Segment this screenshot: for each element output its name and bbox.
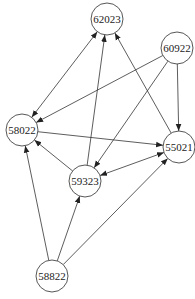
edges-layer: [25, 32, 178, 265]
node-58822[interactable]: 58822: [36, 260, 68, 292]
edge-58822-to-58022: [25, 146, 49, 261]
edge-60922-to-58022: [36, 55, 163, 122]
edge-58022-to-62023: [32, 32, 98, 118]
graph-svg: 620236092258022550215932358822: [0, 0, 195, 299]
node-label: 59323: [71, 175, 99, 187]
node-59323[interactable]: 59323: [69, 165, 101, 197]
node-62023[interactable]: 62023: [91, 3, 123, 35]
graph-canvas: 620236092258022550215932358822: [0, 0, 195, 299]
edge-58022-to-55021: [38, 132, 163, 146]
edge-59323-to-58022: [34, 140, 72, 171]
edge-60922-to-55021: [177, 64, 178, 131]
nodes-layer: 620236092258022550215932358822: [6, 3, 195, 292]
node-55021[interactable]: 55021: [163, 131, 195, 163]
edge-60922-to-59323: [94, 61, 168, 168]
node-label: 55021: [165, 141, 193, 153]
node-label: 58822: [38, 270, 66, 282]
node-label: 62023: [93, 13, 121, 25]
node-58022[interactable]: 58022: [6, 114, 38, 146]
node-label: 60922: [163, 42, 191, 54]
node-60922[interactable]: 60922: [161, 32, 193, 64]
node-label: 58022: [8, 124, 36, 136]
edge-59323-to-62023: [87, 35, 105, 165]
